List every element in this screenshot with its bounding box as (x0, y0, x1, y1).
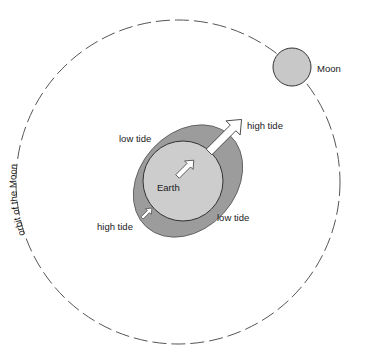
high-tide-near-label: high tide (97, 221, 133, 232)
low-tide-top-label: low tide (119, 133, 151, 144)
earth-label: Earth (157, 182, 180, 193)
moon-label: Moon (317, 63, 341, 74)
high-tide-far-label: high tide (247, 120, 283, 131)
tides-diagram: orbit of the Moon Moon Earth high tide h… (0, 0, 367, 362)
low-tide-bottom-label: low tide (217, 212, 249, 223)
moon (273, 48, 311, 86)
orbit-label: orbit of the Moon (7, 163, 27, 237)
